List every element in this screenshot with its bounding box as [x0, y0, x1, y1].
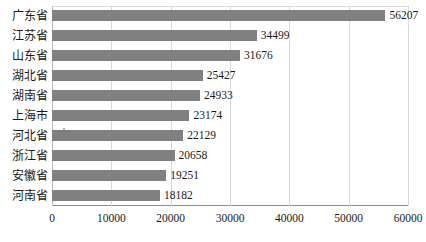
category-label: 江苏省: [0, 26, 48, 46]
category-label: 山东省: [0, 46, 48, 66]
category-label: 浙江省: [0, 146, 48, 166]
artifact-speck: [63, 128, 65, 130]
bar-row: 23174: [52, 106, 408, 126]
bar-value-label: 31676: [244, 47, 273, 63]
bar-value-label: 24933: [204, 87, 233, 103]
bar: [52, 150, 175, 161]
bar: [52, 10, 385, 21]
bar-value-label: 34499: [261, 27, 290, 43]
bar: [52, 110, 189, 121]
category-label: 广东省: [0, 6, 48, 26]
bar-value-label: 20658: [179, 147, 208, 163]
category-axis: 广东省江苏省山东省湖北省湖南省上海市河北省浙江省安徽省河南省: [0, 6, 48, 206]
category-label: 安徽省: [0, 166, 48, 186]
bar-value-label: 56207: [389, 7, 418, 23]
bar: [52, 70, 203, 81]
bar: [52, 130, 183, 141]
bar-row: 24933: [52, 86, 408, 106]
category-label: 湖北省: [0, 66, 48, 86]
bar-row: 56207: [52, 6, 408, 26]
category-label: 河南省: [0, 186, 48, 206]
gridline-60000: [408, 6, 409, 206]
bar-value-label: 25427: [207, 67, 236, 83]
x-tick-label-10000: 10000: [97, 210, 126, 226]
category-label: 上海市: [0, 106, 48, 126]
bar: [52, 190, 160, 201]
bar-row: 20658: [52, 146, 408, 166]
x-tick-label-40000: 40000: [275, 210, 304, 226]
bar-row: 31676: [52, 46, 408, 66]
bar-row: 18182: [52, 186, 408, 206]
bar-value-label: 19251: [170, 167, 199, 183]
bar-chart: 广东省江苏省山东省湖北省湖南省上海市河北省浙江省安徽省河南省 562073449…: [0, 0, 426, 242]
x-tick-label-60000: 60000: [394, 210, 423, 226]
bar: [52, 170, 166, 181]
bar: [52, 90, 200, 101]
bar: [52, 30, 257, 41]
x-tick-label-30000: 30000: [216, 210, 245, 226]
category-label: 湖南省: [0, 86, 48, 106]
x-tick-label-0: 0: [49, 210, 55, 226]
category-label: 河北省: [0, 126, 48, 146]
bar-row: 25427: [52, 66, 408, 86]
x-tick-label-20000: 20000: [156, 210, 185, 226]
bar-row: 19251: [52, 166, 408, 186]
bar-row: 22129: [52, 126, 408, 146]
bar: [52, 50, 240, 61]
bar-value-label: 18182: [164, 187, 193, 203]
plot-area: 5620734499316762542724933231742212920658…: [52, 6, 408, 206]
bar-value-label: 22129: [187, 127, 216, 143]
bar-value-label: 23174: [193, 107, 222, 123]
bar-row: 34499: [52, 26, 408, 46]
x-axis-tick-labels: 0100002000030000400005000060000: [52, 208, 408, 230]
x-tick-label-50000: 50000: [334, 210, 363, 226]
